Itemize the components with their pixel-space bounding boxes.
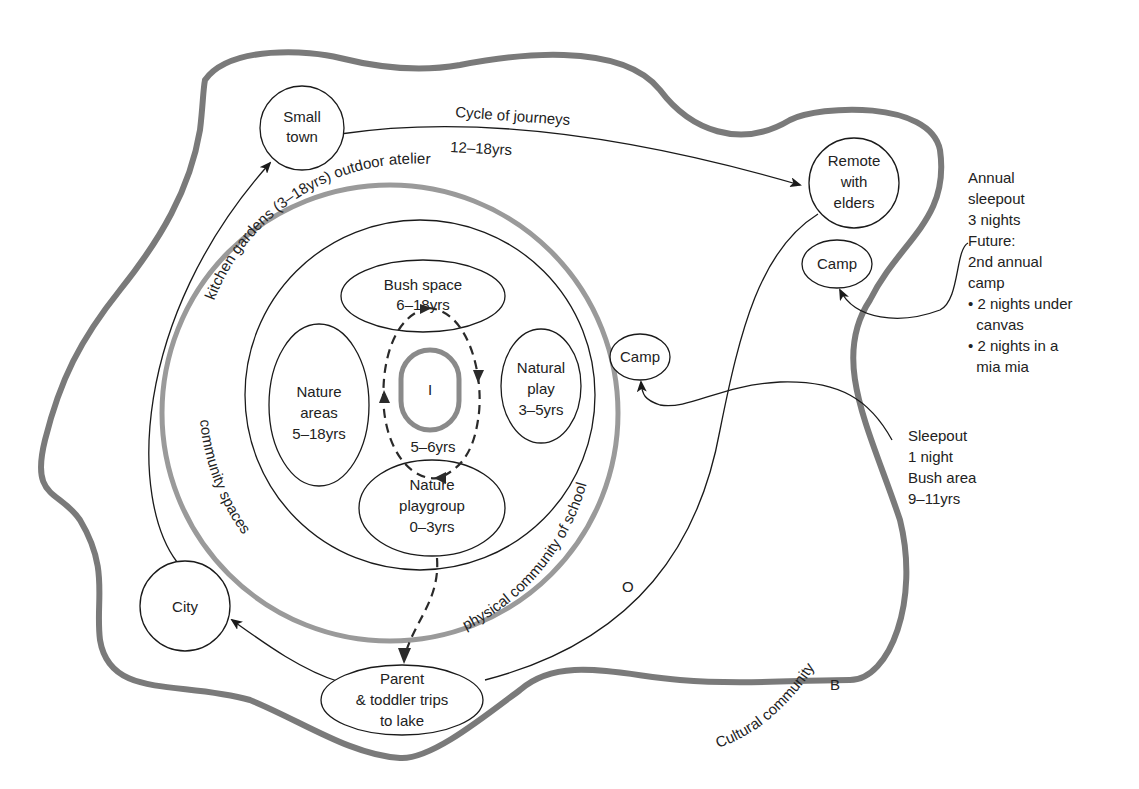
cycle-arrow-right-icon bbox=[473, 370, 484, 383]
svg-text:0–3yrs: 0–3yrs bbox=[409, 518, 454, 535]
svg-text:3 nights: 3 nights bbox=[968, 211, 1021, 228]
cycle-of-journeys-label: Cycle of journeys bbox=[455, 103, 571, 128]
svg-text:1 night: 1 night bbox=[908, 448, 954, 465]
svg-text:with: with bbox=[840, 173, 868, 190]
svg-text:& toddler trips: & toddler trips bbox=[356, 691, 449, 708]
svg-text:• 2 nights in a: • 2 nights in a bbox=[968, 337, 1059, 354]
node-nature-playgroup: Nature playgroup 0–3yrs bbox=[359, 460, 505, 556]
node-remote-with-elders: Remote with elders bbox=[809, 138, 899, 228]
cycle-arrow-left-icon bbox=[379, 390, 390, 403]
svg-text:canvas: canvas bbox=[968, 316, 1024, 333]
svg-text:2nd annual: 2nd annual bbox=[968, 253, 1042, 270]
svg-text:Natural: Natural bbox=[517, 359, 565, 376]
node-nature-areas: Nature areas 5–18yrs bbox=[269, 324, 369, 486]
self-label: I bbox=[428, 381, 432, 398]
cultural-community-boundary bbox=[41, 52, 941, 758]
node-camp-outer: Camp bbox=[802, 240, 872, 288]
journey-remote-to-parent bbox=[485, 214, 818, 680]
svg-text:Remote: Remote bbox=[828, 152, 881, 169]
svg-text:elders: elders bbox=[834, 194, 875, 211]
nested-community-diagram: kitchen gardens (3–18yrs) outdoor atelie… bbox=[0, 0, 1139, 789]
self-age-label: 5–6yrs bbox=[410, 438, 455, 455]
svg-text:City: City bbox=[172, 598, 198, 615]
svg-text:Annual: Annual bbox=[968, 169, 1015, 186]
svg-text:sleepout: sleepout bbox=[968, 190, 1026, 207]
node-natural-play: Natural play 3–5yrs bbox=[501, 329, 581, 443]
cycle-age-label: 12–18yrs bbox=[450, 138, 513, 158]
dashed-arrow-down-icon bbox=[398, 648, 411, 664]
community-spaces-label: community spaces bbox=[197, 419, 255, 537]
sleepout-note: Sleepout 1 night Bush area 9–11yrs bbox=[908, 427, 977, 507]
cultural-community-label: Cultural community bbox=[713, 659, 818, 751]
node-parent-toddler: Parent & toddler trips to lake bbox=[321, 665, 483, 735]
svg-text:Small: Small bbox=[283, 108, 321, 125]
svg-text:playgroup: playgroup bbox=[399, 497, 465, 514]
svg-text:camp: camp bbox=[968, 274, 1005, 291]
svg-text:town: town bbox=[286, 128, 318, 145]
svg-text:areas: areas bbox=[300, 404, 338, 421]
svg-text:Parent: Parent bbox=[380, 670, 425, 687]
svg-text:Bush space: Bush space bbox=[384, 276, 462, 293]
letter-b: B bbox=[830, 676, 840, 693]
svg-text:Sleepout: Sleepout bbox=[908, 427, 968, 444]
annual-sleepout-note: Annual sleepout 3 nights Future: 2nd ann… bbox=[968, 169, 1073, 375]
svg-text:9–11yrs: 9–11yrs bbox=[908, 490, 960, 507]
svg-text:to lake: to lake bbox=[380, 712, 424, 729]
svg-text:play: play bbox=[527, 380, 555, 397]
svg-text:3–5yrs: 3–5yrs bbox=[518, 401, 563, 418]
letter-o: O bbox=[622, 578, 634, 595]
svg-text:Future:: Future: bbox=[968, 232, 1016, 249]
node-camp-inner: Camp bbox=[610, 334, 670, 380]
svg-text:mia mia: mia mia bbox=[968, 358, 1030, 375]
svg-text:Bush area: Bush area bbox=[908, 469, 977, 486]
svg-text:• 2 nights under: • 2 nights under bbox=[968, 295, 1073, 312]
svg-text:Camp: Camp bbox=[620, 348, 660, 365]
node-small-town: Small town bbox=[260, 86, 344, 170]
svg-text:5–18yrs: 5–18yrs bbox=[292, 425, 345, 442]
svg-text:Nature: Nature bbox=[296, 383, 341, 400]
node-city: City bbox=[140, 561, 230, 651]
node-bush-space: Bush space 6–18yrs bbox=[341, 260, 505, 332]
svg-text:Camp: Camp bbox=[817, 255, 857, 272]
